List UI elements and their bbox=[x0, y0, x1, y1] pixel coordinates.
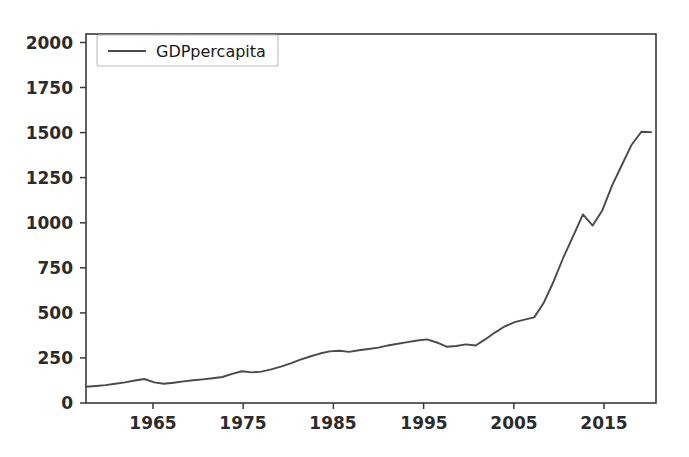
y-tick-label-1250: 1250 bbox=[26, 168, 73, 188]
x-tick-label-2005: 2005 bbox=[490, 413, 537, 433]
y-tick-marks bbox=[80, 43, 86, 404]
x-tick-labels: 1965 1975 1985 1995 2005 2015 bbox=[129, 413, 627, 433]
chart-figure: 0 250 500 750 1000 1250 1500 1750 2000 1… bbox=[0, 0, 689, 457]
plot-background bbox=[86, 34, 656, 403]
y-tick-label-750: 750 bbox=[38, 258, 74, 278]
y-tick-labels: 0 250 500 750 1000 1250 1500 1750 2000 bbox=[26, 33, 73, 413]
y-tick-label-250: 250 bbox=[38, 348, 74, 368]
x-tick-marks bbox=[153, 403, 604, 409]
y-tick-label-2000: 2000 bbox=[26, 33, 73, 53]
line-chart-canvas: 0 250 500 750 1000 1250 1500 1750 2000 1… bbox=[0, 0, 689, 457]
legend[interactable]: GDPpercapita bbox=[97, 35, 278, 66]
x-tick-label-1975: 1975 bbox=[219, 413, 266, 433]
y-tick-label-1750: 1750 bbox=[26, 78, 73, 98]
x-tick-label-1995: 1995 bbox=[400, 413, 447, 433]
x-tick-label-2015: 2015 bbox=[580, 413, 627, 433]
x-tick-label-1985: 1985 bbox=[309, 413, 356, 433]
y-tick-label-1000: 1000 bbox=[26, 213, 73, 233]
y-tick-label-1500: 1500 bbox=[26, 123, 73, 143]
x-tick-label-1965: 1965 bbox=[129, 413, 176, 433]
legend-label-gdppercapita: GDPpercapita bbox=[156, 42, 266, 61]
y-tick-label-0: 0 bbox=[61, 393, 73, 413]
y-tick-label-500: 500 bbox=[38, 303, 74, 323]
